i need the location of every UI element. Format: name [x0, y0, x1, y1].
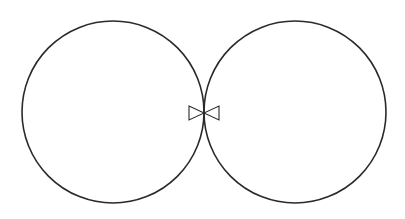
left-circle	[22, 21, 204, 203]
diagram-canvas	[0, 0, 405, 219]
right-circle	[204, 21, 386, 203]
tangent-circles-figure	[0, 0, 405, 219]
